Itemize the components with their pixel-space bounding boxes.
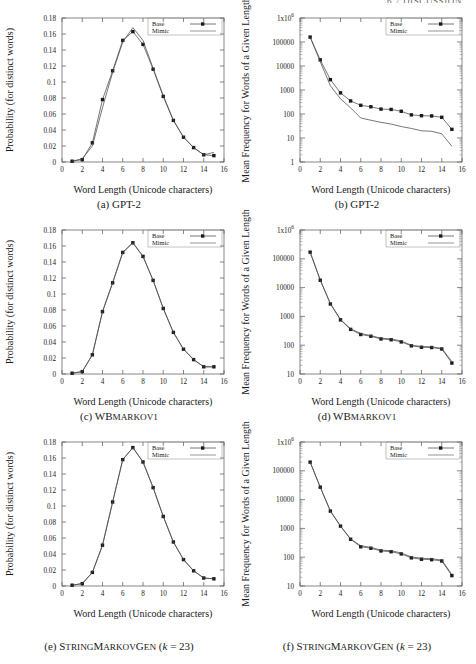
legend-label-base: Base (390, 232, 403, 239)
caption-e-tag: (e) (44, 640, 56, 652)
caption-d-tag: (d) (318, 410, 331, 422)
svg-text:4: 4 (101, 378, 105, 386)
caption-f-k-eq: = 23) (405, 640, 431, 652)
svg-text:12: 12 (418, 378, 426, 386)
svg-text:1000: 1000 (280, 313, 295, 321)
svg-text:0.18: 0.18 (43, 227, 56, 235)
svg-text:0.04: 0.04 (43, 551, 56, 559)
caption-a-name: GPT-2 (112, 198, 141, 210)
x-axis-label: Word Length (Unicode characters) (74, 608, 213, 620)
svg-text:8: 8 (379, 378, 383, 386)
svg-text:4: 4 (339, 166, 343, 174)
svg-text:100: 100 (283, 554, 294, 562)
caption-c-name: WB (95, 410, 113, 422)
svg-text:0.02: 0.02 (43, 143, 56, 151)
caption-c: (c) WBMARKOV1 (0, 410, 238, 422)
legend-label-mimic: Mimic (152, 451, 169, 458)
svg-text:0.02: 0.02 (43, 355, 56, 363)
svg-text:0.12: 0.12 (43, 275, 56, 283)
svg-text:0: 0 (60, 378, 64, 386)
running-head: 6.7 DISCUSSION (387, 0, 462, 3)
svg-text:100000: 100000 (272, 39, 294, 47)
svg-text:0: 0 (60, 590, 64, 598)
svg-text:10: 10 (160, 378, 168, 386)
caption-f-small-2: ARKOV (341, 642, 374, 652)
svg-text:10: 10 (398, 378, 406, 386)
svg-text:1x106: 1x106 (277, 224, 294, 234)
svg-text:1: 1 (290, 159, 294, 167)
chart-panel-a: 024681012141600.020.040.060.080.10.120.1… (0, 8, 238, 198)
x-axis-label: Word Length (Unicode characters) (74, 396, 213, 408)
x-axis-label: Word Length (Unicode characters) (312, 396, 451, 408)
y-axis-label: Probability (for distinct words) (4, 240, 16, 364)
caption-e-small-1: TRING (65, 642, 93, 652)
caption-e-small-3: EN (144, 642, 156, 652)
svg-text:8: 8 (379, 166, 383, 174)
caption-d: (d) WBMARKOV1 (238, 410, 476, 422)
y-axis-label: Probability (for distinct words) (4, 28, 16, 152)
caption-e-cap-3: G (136, 640, 144, 652)
svg-text:14: 14 (200, 378, 208, 386)
svg-text:4: 4 (339, 378, 343, 386)
caption-e-small-2: ARKOV (103, 642, 136, 652)
svg-text:0.08: 0.08 (43, 95, 56, 103)
caption-d-name: WB (333, 410, 351, 422)
chart-panel-b: 02468101214161101001000100001000001x106W… (238, 8, 476, 198)
svg-text:0.12: 0.12 (43, 487, 56, 495)
svg-text:4: 4 (339, 590, 343, 598)
svg-text:0: 0 (52, 371, 56, 379)
svg-text:6: 6 (121, 378, 125, 386)
caption-b: (b) GPT-2 (238, 198, 476, 210)
x-axis-label: Word Length (Unicode characters) (312, 608, 451, 620)
svg-text:0: 0 (298, 166, 302, 174)
svg-text:12: 12 (180, 166, 188, 174)
svg-text:2: 2 (318, 378, 322, 386)
svg-text:0.16: 0.16 (43, 31, 56, 39)
caption-f-small-3: EN (381, 642, 393, 652)
legend-label-mimic: Mimic (152, 27, 169, 34)
svg-text:6: 6 (121, 166, 125, 174)
svg-text:0.1: 0.1 (47, 291, 56, 299)
caption-a: (a) GPT-2 (0, 198, 238, 210)
caption-f-tag: (f) (283, 640, 294, 652)
caption-e: (e) STRINGMARKOVGEN (k = 23) (0, 640, 238, 652)
svg-text:1x106: 1x106 (277, 12, 294, 22)
svg-text:2: 2 (80, 166, 84, 174)
svg-text:10: 10 (160, 590, 168, 598)
svg-text:14: 14 (200, 590, 208, 598)
svg-text:16: 16 (458, 166, 466, 174)
caption-a-tag: (a) (97, 198, 109, 210)
legend-label-base: Base (152, 444, 165, 451)
svg-text:10: 10 (398, 166, 406, 174)
caption-b-tag: (b) (335, 198, 348, 210)
svg-text:8: 8 (379, 590, 383, 598)
svg-text:4: 4 (101, 590, 105, 598)
legend-label-base: Base (390, 444, 403, 451)
svg-text:0.1: 0.1 (47, 503, 56, 511)
svg-text:100000: 100000 (272, 255, 294, 263)
svg-text:0.08: 0.08 (43, 519, 56, 527)
svg-text:100000: 100000 (272, 467, 294, 475)
y-axis-label: Mean Frequency for Words of a Given Leng… (240, 0, 251, 183)
svg-text:12: 12 (418, 590, 426, 598)
svg-text:10: 10 (287, 583, 295, 591)
svg-text:0.02: 0.02 (43, 567, 56, 575)
svg-text:0: 0 (298, 378, 302, 386)
svg-text:0: 0 (60, 166, 64, 174)
svg-text:2: 2 (80, 590, 84, 598)
svg-text:0.14: 0.14 (43, 259, 56, 267)
x-axis-label: Word Length (Unicode characters) (74, 184, 213, 196)
caption-f: (f) STRINGMARKOVGEN (k = 23) (238, 640, 476, 652)
svg-text:8: 8 (141, 166, 145, 174)
chart-panel-e: 024681012141600.020.040.060.080.10.120.1… (0, 432, 238, 622)
chart-panel-d: 0246810121416101001000100001000001x106Wo… (238, 220, 476, 410)
svg-text:12: 12 (180, 590, 188, 598)
svg-text:0.06: 0.06 (43, 323, 56, 331)
svg-text:16: 16 (458, 590, 466, 598)
svg-text:0.16: 0.16 (43, 455, 56, 463)
svg-text:16: 16 (220, 378, 228, 386)
svg-text:14: 14 (438, 590, 446, 598)
svg-text:6: 6 (359, 166, 363, 174)
chart-panel-f: 0246810121416101001000100001000001x106Wo… (238, 432, 476, 622)
svg-text:1000: 1000 (280, 87, 295, 95)
